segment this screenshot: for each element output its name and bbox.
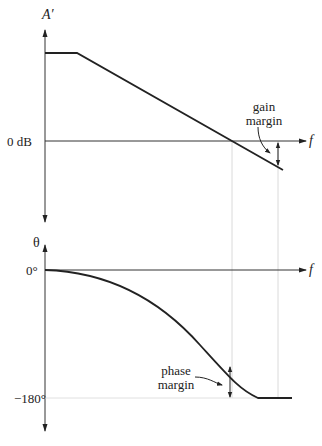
phase-f-label: f [309, 263, 313, 277]
gain-margin-label: gain margin [240, 100, 288, 128]
minus-180-label: −180° [14, 392, 46, 405]
zero-degree-label: 0° [26, 264, 38, 277]
magnitude-f-label: f [309, 134, 313, 148]
magnitude-axis-label: A′ [42, 8, 54, 22]
phase-axes [45, 245, 306, 431]
zero-db-label: 0 dB [7, 135, 32, 148]
gain-margin-arrow [258, 127, 278, 165]
phase-axis-label: θ [33, 236, 40, 250]
phase-margin-label: phase margin [152, 364, 200, 392]
